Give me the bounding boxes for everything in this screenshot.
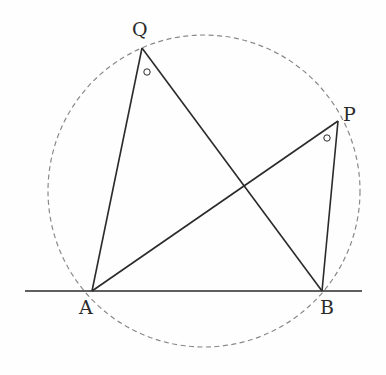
angle-mark-Q-icon	[144, 69, 150, 75]
segment-PB	[322, 121, 338, 291]
triangle-segments	[92, 48, 338, 291]
segment-QB	[142, 48, 322, 291]
label-A: A	[78, 296, 93, 318]
label-B: B	[320, 296, 334, 318]
label-P: P	[343, 103, 356, 125]
circumscribed-circle	[48, 35, 360, 347]
geometry-diagram: Q P A B	[0, 0, 386, 375]
label-Q: Q	[132, 18, 148, 40]
segment-AQ	[92, 48, 142, 291]
angle-mark-P-icon	[324, 135, 330, 141]
angle-marks	[144, 69, 330, 141]
